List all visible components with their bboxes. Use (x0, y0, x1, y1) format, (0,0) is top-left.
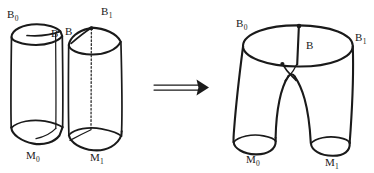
left-cylinder-left-wall (11, 37, 12, 127)
label-pants-top-right: B1 (355, 32, 366, 43)
arrow-head-icon (197, 80, 210, 96)
pants-right-leg-bottom-rim (311, 142, 350, 156)
label-right-cylinder-seam: B (65, 26, 72, 37)
pants-left-leg-bottom-rim (234, 138, 276, 155)
right-cylinder-bottom-back-arc (69, 128, 122, 136)
right-cylinder-top-rim (69, 28, 121, 55)
pants-right-leg-outer-wall (350, 46, 353, 143)
label-pants-seam: B (306, 40, 313, 51)
label-left-cylinder-top: B0 (7, 9, 18, 20)
label-right-cylinder-bottom: M1 (90, 152, 104, 163)
figure-drawing (0, 0, 374, 173)
pants-right-leg-bottom-back-arc (311, 137, 350, 143)
label-right-cylinder-top: B1 (101, 6, 112, 17)
left-cylinder-bottom-back-arc (11, 120, 62, 127)
right-cylinder-bottom-rim (69, 131, 122, 150)
pants-surface (234, 24, 354, 156)
double-right-arrow (154, 80, 209, 96)
pants-left-leg-bottom-back-arc (234, 135, 276, 142)
pants-chord-top-point (297, 24, 302, 29)
label-pants-bottom-left: M0 (246, 154, 260, 165)
left-cylinder-bottom-fold (36, 128, 56, 138)
pants-left-leg-inner-wall (276, 76, 289, 138)
right-cylinder (68, 26, 122, 150)
label-pants-top-left: B0 (236, 18, 247, 29)
figure-canvas: B0 B M0 B B1 M1 B0 B1 B M0 M1 (0, 0, 374, 173)
pants-vertical-chord (297, 26, 299, 65)
left-cylinder (11, 24, 63, 144)
right-cylinder-right-wall (121, 42, 122, 132)
label-pants-bottom-right: M1 (325, 157, 339, 168)
pants-seam-junction-point (280, 62, 284, 66)
label-left-cylinder-bottom: M0 (26, 150, 40, 161)
label-left-cylinder-seam: B (51, 28, 58, 39)
pants-left-leg-outer-wall (234, 46, 244, 142)
right-cylinder-point-b (89, 26, 93, 30)
right-cylinder-left-wall (68, 45, 69, 135)
left-cylinder-right-wall (62, 36, 63, 127)
pants-right-leg-inner-wall (295, 77, 311, 143)
